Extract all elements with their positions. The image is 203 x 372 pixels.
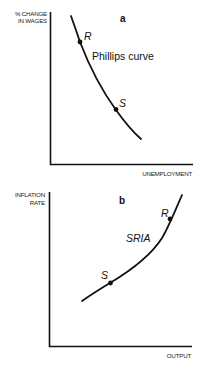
panel-a-y-label-line2: IN WAGES (18, 17, 47, 24)
panel-a-point-r (78, 40, 83, 45)
panel-b-point-s-label: S (101, 269, 108, 281)
panel-a-x-label: UNEMPLOYMENT (142, 170, 192, 177)
diagram: % CHANGE IN WAGES a R Phillips curve S U… (0, 0, 203, 372)
panel-b-x-label: OUTPUT (167, 352, 192, 359)
panel-a-point-s (114, 107, 119, 112)
panel-b-point-s (108, 281, 113, 286)
panel-b-y-label-line2: RATE (30, 199, 45, 206)
panel-a-y-label-line1: % CHANGE (15, 10, 47, 17)
panel-b-curve-label: SRIA (126, 232, 151, 244)
panel-a: % CHANGE IN WAGES a R Phillips curve S U… (15, 10, 193, 177)
panel-a-axes (51, 12, 194, 165)
panel-b-y-label-line1: INFLATION (15, 191, 45, 198)
panel-b-point-r-label: R (161, 207, 169, 219)
panel-a-curve-label: Phillips curve (92, 50, 154, 62)
panel-a-letter: a (120, 13, 126, 24)
panel-b-axes (50, 192, 193, 347)
panel-a-point-s-label: S (119, 97, 126, 109)
panel-b: INFLATION RATE b SRIA R S OUTPUT (15, 191, 192, 359)
phillips-curve (71, 16, 141, 139)
panel-a-point-r-label: R (84, 30, 92, 42)
panel-b-letter: b (119, 195, 125, 206)
